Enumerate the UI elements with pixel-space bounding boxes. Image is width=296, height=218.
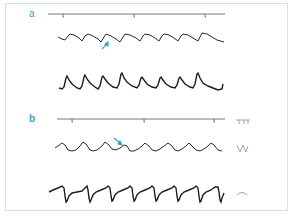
panel-a-waveform-upper	[58, 33, 224, 49]
triangle-wave-glyph-icon	[237, 145, 248, 152]
waveform-diagram	[0, 0, 296, 218]
panel-b-marker-line	[57, 119, 225, 122]
panel-b-waveform-lower	[49, 186, 224, 202]
arrow-icon	[102, 42, 108, 49]
bump-glyph-icon	[237, 193, 247, 196]
panel-a-waveform-lower	[59, 73, 223, 90]
square-pulse-glyph-icon	[236, 120, 250, 124]
arrow-icon	[114, 138, 122, 145]
panel-b-waveform-upper	[55, 138, 222, 151]
panel-a-marker-line	[48, 14, 225, 17]
